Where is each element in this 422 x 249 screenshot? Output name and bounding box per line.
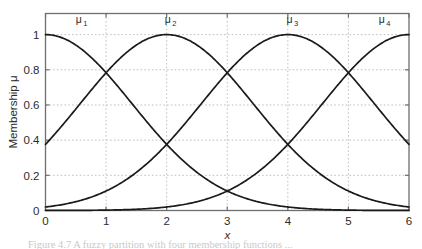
x-tick-label: 0 (42, 215, 48, 227)
series-annotation-index: 2 (172, 19, 176, 28)
x-tick-label: 1 (103, 215, 109, 227)
x-tick-label: 5 (345, 215, 351, 227)
y-tick-label: 0.8 (24, 64, 40, 76)
x-tick-label: 6 (406, 215, 412, 227)
x-tick-label: 4 (285, 215, 292, 227)
series-annotation-index: 4 (386, 19, 390, 28)
series-annotation-index: 3 (294, 19, 298, 28)
figure-caption: Figure 4.7 A fuzzy partition with four m… (28, 239, 293, 249)
y-tick-label: 0.6 (24, 99, 40, 111)
series-annotation-index: 1 (83, 19, 87, 28)
y-axis-title: Membership μ (7, 75, 19, 148)
series-annotation-symbol: μ (76, 13, 82, 25)
series-annotation-symbol: μ (287, 13, 293, 25)
figure-container: 0123456 00.20.40.60.81 μ1μ2μ3μ4 x Member… (0, 0, 422, 249)
y-tick-label: 0.4 (24, 134, 41, 146)
series-annotation-symbol: μ (379, 13, 385, 25)
y-tick-label: 1 (33, 29, 39, 41)
x-tick-label: 3 (224, 215, 230, 227)
membership-function-chart: 0123456 00.20.40.60.81 μ1μ2μ3μ4 x Member… (0, 0, 422, 249)
y-tick-label: 0 (33, 205, 39, 217)
series-annotation-symbol: μ (165, 13, 171, 25)
y-tick-label: 0.2 (24, 170, 40, 182)
x-tick-label: 2 (163, 215, 169, 227)
